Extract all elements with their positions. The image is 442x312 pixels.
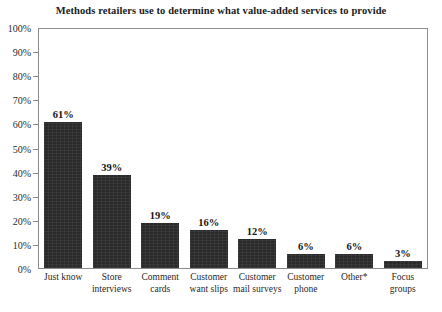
bar — [141, 223, 179, 268]
y-tick-label-30: 30% — [13, 191, 31, 202]
bar — [335, 254, 373, 268]
bar — [190, 230, 228, 268]
x-axis-category-label: Other* — [330, 272, 379, 284]
y-tick-label-0: 0% — [18, 264, 31, 275]
bar-value-label: 39% — [101, 162, 122, 173]
bar-value-label: 12% — [247, 226, 268, 237]
x-axis-category-label: Customerwant slips — [185, 272, 234, 295]
x-label-line: Customer — [282, 272, 331, 284]
y-tick-label-50: 50% — [13, 143, 31, 154]
x-axis-category-label: Storeinterviews — [88, 272, 137, 295]
plot-area: 61%39%19%16%12%6%6%3% — [39, 29, 427, 268]
x-label-line: want slips — [185, 284, 234, 296]
bar-value-label: 6% — [298, 241, 314, 252]
x-label-line: Comment — [136, 272, 185, 284]
bar-value-label: 19% — [150, 210, 171, 221]
y-tick-label-90: 90% — [13, 47, 31, 58]
x-axis-category-label: Customermail surveys — [233, 272, 282, 295]
x-axis-category-label: Customerphone — [282, 272, 331, 295]
x-label-line: mail surveys — [233, 284, 282, 296]
y-axis-labels: 0%10%20%30%40%50%60%70%80%90%100% — [0, 28, 36, 269]
bar — [384, 261, 422, 268]
bar-group: 3% — [384, 29, 422, 268]
chart-title: Methods retailers use to determine what … — [0, 5, 442, 16]
y-tick-label-10: 10% — [13, 239, 31, 250]
y-tick-label-20: 20% — [13, 215, 31, 226]
bar-group: 6% — [335, 29, 373, 268]
bar-value-label: 16% — [198, 217, 219, 228]
y-tick-label-100: 100% — [8, 23, 31, 34]
x-label-line: cards — [136, 284, 185, 296]
bar-value-label: 61% — [53, 109, 74, 120]
bar-group: 16% — [190, 29, 228, 268]
bar-group: 61% — [44, 29, 82, 268]
bar — [44, 122, 82, 268]
bar-value-label: 3% — [395, 248, 411, 259]
x-label-line: Store — [88, 272, 137, 284]
bar-group: 12% — [238, 29, 276, 268]
bar-group: 19% — [141, 29, 179, 268]
chart-figure: Methods retailers use to determine what … — [0, 0, 442, 312]
x-label-line: phone — [282, 284, 331, 296]
y-tick-label-80: 80% — [13, 71, 31, 82]
y-tick-label-60: 60% — [13, 119, 31, 130]
x-label-line: Just know — [39, 272, 88, 284]
bar-value-label: 6% — [346, 241, 362, 252]
x-axis-category-label: Commentcards — [136, 272, 185, 295]
bar — [238, 239, 276, 268]
x-label-line: Customer — [185, 272, 234, 284]
x-label-line: Focus — [379, 272, 428, 284]
x-axis-category-label: Focusgroups — [379, 272, 428, 295]
x-axis-labels: Just knowStoreinterviewsCommentcardsCust… — [39, 272, 427, 312]
bar — [93, 175, 131, 268]
x-axis-category-label: Just know — [39, 272, 88, 284]
bar — [287, 254, 325, 268]
bar-group: 39% — [93, 29, 131, 268]
x-label-line: Customer — [233, 272, 282, 284]
x-label-line: Other* — [330, 272, 379, 284]
y-tick-label-40: 40% — [13, 167, 31, 178]
x-label-line: groups — [379, 284, 428, 296]
y-tick-label-70: 70% — [13, 95, 31, 106]
bar-group: 6% — [287, 29, 325, 268]
x-label-line: interviews — [88, 284, 137, 296]
